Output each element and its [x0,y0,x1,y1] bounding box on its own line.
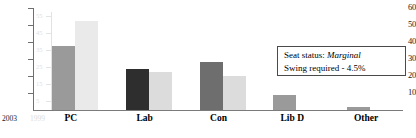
seat-status-label: Seat status: [284,50,325,60]
bar-pc-1999 [75,21,98,110]
bar-other-2003 [347,107,370,110]
bar-con-2003 [200,62,223,110]
x-axis-label-libd: Lib D [255,113,329,124]
x-axis-baseline [33,110,403,111]
swing-required-line: Swing required - 4.5% [284,62,405,75]
bar-group [126,8,172,110]
bar-pc-2003 [52,46,75,110]
seat-status-annotation: Seat status: Marginal Swing required - 4… [277,46,406,76]
bar-group [200,8,246,110]
x-axis-label-lab: Lab [108,113,182,124]
seat-status-value: Marginal [327,50,361,60]
bar-group [52,8,98,110]
bar-libd-2003 [273,95,296,110]
bar-con-1999 [223,76,246,110]
x-axis-label-con: Con [182,113,256,124]
bar-lab-1999 [149,72,172,110]
bar-lab-2003 [126,69,149,110]
x-axis-label-pc: PC [34,113,108,124]
x-axis-label-other: Other [329,113,403,124]
series-key-2003: 2003 [2,113,17,124]
election-bar-chart: 60 50 40 30 20 10 55 45 35 25 15 5 2003 … [0,0,416,138]
seat-status-line: Seat status: Marginal [284,49,405,62]
